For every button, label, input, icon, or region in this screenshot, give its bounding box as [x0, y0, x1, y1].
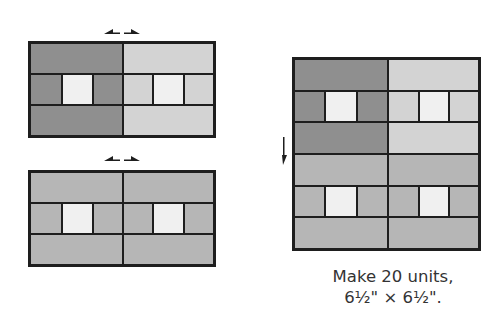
bottom-strip-left: [294, 122, 388, 154]
center-square: [419, 91, 449, 122]
mid-left-seg: [123, 203, 153, 234]
unit-top-left: [28, 41, 216, 138]
press-arrows-icon: [104, 155, 140, 163]
bottom-strip-right: [123, 105, 214, 136]
mid-left-seg: [388, 186, 419, 217]
center-square: [325, 91, 357, 122]
center-square: [419, 186, 449, 217]
mid-right-seg: [93, 74, 123, 105]
center-square: [153, 203, 184, 234]
mid-right-seg: [184, 203, 214, 234]
caption-line-1: Make 20 units,: [318, 266, 468, 287]
caption: Make 20 units, 6½" × 6½".: [318, 266, 468, 308]
mid-right-seg: [357, 91, 388, 122]
caption-line-2: 6½" × 6½".: [318, 287, 468, 308]
top-strip-left: [294, 154, 388, 186]
top-strip-right: [123, 43, 214, 74]
top-strip-right: [123, 172, 214, 203]
press-arrows-icon: [104, 28, 140, 36]
top-strip-right: [388, 154, 479, 186]
center-square: [325, 186, 357, 217]
center-square: [62, 203, 93, 234]
top-strip-left: [294, 59, 388, 91]
center-square: [153, 74, 184, 105]
bottom-strip-left: [294, 217, 388, 249]
top-strip-left: [30, 172, 123, 203]
mid-left-seg: [294, 91, 325, 122]
mid-right-seg: [449, 91, 479, 122]
top-strip-left: [30, 43, 123, 74]
mid-right-seg: [93, 203, 123, 234]
mid-right-seg: [449, 186, 479, 217]
bottom-strip-right: [388, 122, 479, 154]
bottom-strip-left: [30, 105, 123, 136]
mid-left-seg: [30, 203, 62, 234]
mid-left-seg: [388, 91, 419, 122]
mid-left-seg: [30, 74, 62, 105]
bottom-strip-right: [123, 234, 214, 265]
mid-left-seg: [294, 186, 325, 217]
mid-right-seg: [184, 74, 214, 105]
mid-left-seg: [123, 74, 153, 105]
unit-assembled: [292, 57, 481, 251]
bottom-strip-right: [388, 217, 479, 249]
mid-right-seg: [357, 186, 388, 217]
unit-bottom-left: [28, 170, 216, 267]
top-strip-right: [388, 59, 479, 91]
press-down-arrow-icon: [280, 137, 288, 165]
bottom-strip-left: [30, 234, 123, 265]
center-square: [62, 74, 93, 105]
